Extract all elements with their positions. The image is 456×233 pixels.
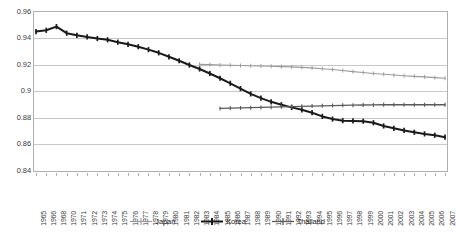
y-tick-label: 0.96 bbox=[2, 8, 31, 16]
x-tick-mark bbox=[343, 173, 344, 176]
x-tick-mark bbox=[189, 173, 190, 176]
legend-swatch-japan bbox=[130, 217, 152, 226]
x-tick-mark bbox=[251, 173, 252, 176]
plot-area bbox=[33, 11, 448, 172]
y-tick-label: 0.88 bbox=[2, 114, 31, 122]
y-tick-label: 0.84 bbox=[2, 167, 31, 175]
legend-item-japan: Japan bbox=[130, 217, 175, 226]
x-tick-mark bbox=[77, 173, 78, 176]
x-tick-mark bbox=[108, 173, 109, 176]
plot-svg bbox=[34, 12, 447, 171]
y-tick-label: 0.94 bbox=[2, 34, 31, 42]
legend-swatch-korea bbox=[201, 217, 223, 226]
y-axis: 0.840.860.880.90.920.940.96 bbox=[0, 0, 31, 183]
x-tick-mark bbox=[36, 173, 37, 176]
x-tick-mark bbox=[128, 173, 129, 176]
x-tick-mark bbox=[241, 173, 242, 176]
x-tick-mark bbox=[220, 173, 221, 176]
x-tick-mark bbox=[312, 173, 313, 176]
x-tick-mark bbox=[292, 173, 293, 176]
x-tick-mark bbox=[281, 173, 282, 176]
legend-label-japan: Japan bbox=[155, 217, 175, 226]
x-tick-mark bbox=[179, 173, 180, 176]
x-tick-mark bbox=[322, 173, 323, 176]
legend-label-korea: Korea bbox=[226, 217, 246, 226]
x-tick-mark bbox=[373, 173, 374, 176]
x-tick-mark bbox=[56, 173, 57, 176]
x-tick-mark bbox=[394, 173, 395, 176]
y-tick-label: 0.92 bbox=[2, 61, 31, 69]
x-tick-mark bbox=[333, 173, 334, 176]
series-line-korea bbox=[36, 27, 445, 138]
x-tick-mark bbox=[445, 173, 446, 176]
x-tick-mark bbox=[353, 173, 354, 176]
legend-label-thailand: Thailand bbox=[297, 217, 325, 226]
x-tick-mark bbox=[148, 173, 149, 176]
y-tick-label: 0.86 bbox=[2, 140, 31, 148]
x-axis: 1965196619681970197119721973197419751976… bbox=[33, 173, 448, 215]
x-tick-mark bbox=[97, 173, 98, 176]
y-tick-label: 0.9 bbox=[2, 87, 31, 95]
x-tick-mark bbox=[138, 173, 139, 176]
x-tick-mark bbox=[425, 173, 426, 176]
x-tick-mark bbox=[302, 173, 303, 176]
x-tick-mark bbox=[200, 173, 201, 176]
legend-item-korea: Korea bbox=[201, 217, 246, 226]
x-tick-mark bbox=[404, 173, 405, 176]
x-tick-mark bbox=[384, 173, 385, 176]
legend-item-thailand: Thailand bbox=[272, 217, 325, 226]
x-tick-mark bbox=[169, 173, 170, 176]
x-tick-mark bbox=[435, 173, 436, 176]
chart-legend: Japan Korea Thailand bbox=[0, 212, 455, 230]
x-tick-mark bbox=[159, 173, 160, 176]
x-tick-mark bbox=[67, 173, 68, 176]
x-tick-mark bbox=[230, 173, 231, 176]
x-tick-mark bbox=[87, 173, 88, 176]
series-line-japan bbox=[200, 64, 445, 78]
x-tick-mark bbox=[210, 173, 211, 176]
x-tick-mark bbox=[261, 173, 262, 176]
legend-swatch-thailand bbox=[272, 217, 294, 226]
x-tick-mark bbox=[118, 173, 119, 176]
x-tick-mark bbox=[414, 173, 415, 176]
x-tick-mark bbox=[46, 173, 47, 176]
x-tick-mark bbox=[363, 173, 364, 176]
x-tick-mark bbox=[271, 173, 272, 176]
